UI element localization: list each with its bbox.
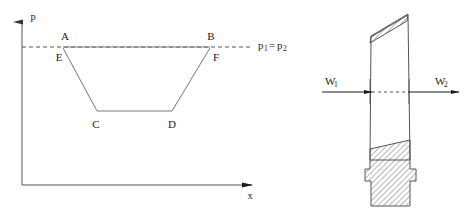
- force-label-w1: W 1: [325, 75, 338, 89]
- ref-label-operator: =: [269, 39, 275, 51]
- vertex-label-a: A: [61, 30, 69, 42]
- y-axis-label: p: [30, 11, 35, 22]
- vertex-label-f: F: [213, 51, 219, 63]
- pressure-distribution-plot: A B E F C D p x p 1 = p 2: [22, 11, 287, 201]
- vertex-label-d: D: [168, 118, 176, 130]
- body-cross-section: W 1 W 2: [322, 14, 459, 206]
- figure-container: A B E F C D p x p 1 = p 2: [0, 0, 470, 217]
- force-label-w1-sub: 1: [334, 80, 338, 89]
- top-hatched-band: [370, 14, 408, 43]
- bottom-hatched-foot: [365, 140, 416, 206]
- figure-svg: A B E F C D p x p 1 = p 2: [0, 0, 470, 217]
- vertex-label-c: C: [92, 118, 99, 130]
- force-label-w2-sub: 2: [444, 80, 448, 89]
- vertex-label-b: B: [207, 30, 214, 42]
- x-axis-label: x: [247, 190, 253, 201]
- vertex-label-e: E: [56, 51, 63, 63]
- force-label-w2: W 2: [435, 75, 448, 89]
- ref-label-sub-left: 1: [264, 44, 268, 53]
- reference-line-label: p 1 = p 2: [258, 39, 287, 53]
- ref-label-sub-right: 2: [283, 44, 287, 53]
- curve-segment-ecdf: [63, 48, 210, 111]
